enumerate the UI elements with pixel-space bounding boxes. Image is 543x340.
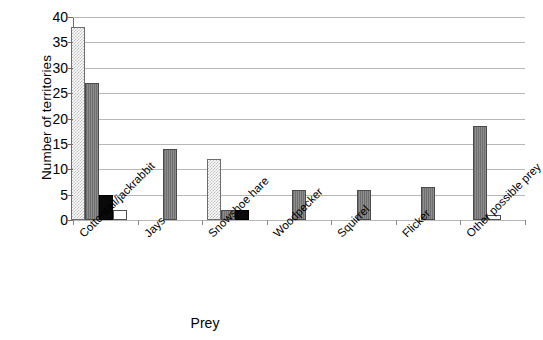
y-axis-tick-label: 0: [40, 213, 68, 227]
gridline: [73, 220, 525, 221]
gridline: [73, 119, 525, 120]
bar: [71, 27, 85, 220]
x-axis-tick-mark: [267, 220, 268, 225]
y-axis-tick-labels: 4035302520151050: [40, 0, 68, 230]
y-axis-tick-mark: [68, 169, 73, 170]
bar: [473, 126, 487, 220]
bar: [85, 83, 99, 220]
bar: [113, 210, 127, 220]
x-axis-tick-mark: [525, 220, 526, 225]
y-axis-tick-mark: [68, 144, 73, 145]
y-axis-tick-label: 10: [40, 162, 68, 176]
gridline: [73, 17, 525, 18]
bar: [163, 149, 177, 220]
y-axis-tick-mark: [68, 119, 73, 120]
gridline: [73, 93, 525, 94]
plot-area: [73, 17, 525, 220]
y-axis-tick-mark: [68, 68, 73, 69]
y-axis-tick-mark: [68, 42, 73, 43]
y-axis-tick-mark: [68, 195, 73, 196]
y-axis-tick-label: 5: [40, 188, 68, 202]
x-axis-tick-mark: [331, 220, 332, 225]
gridline: [73, 42, 525, 43]
y-axis-tick-label: 40: [40, 10, 68, 24]
y-axis-tick-label: 30: [40, 61, 68, 75]
x-axis-tick-mark: [73, 220, 74, 225]
y-axis-tick-label: 25: [40, 86, 68, 100]
x-axis-tick-mark: [138, 220, 139, 225]
x-axis-tick-mark: [460, 220, 461, 225]
y-axis-tick-mark: [68, 17, 73, 18]
y-axis-tick-label: 20: [40, 112, 68, 126]
x-axis-tick-mark: [396, 220, 397, 225]
y-axis-tick-mark: [68, 93, 73, 94]
gridline: [73, 68, 525, 69]
y-axis-tick-label: 35: [40, 35, 68, 49]
gridline: [73, 144, 525, 145]
x-axis-title: Prey: [0, 315, 410, 331]
y-axis-tick-label: 15: [40, 137, 68, 151]
bar: [207, 159, 221, 220]
x-axis-tick-mark: [202, 220, 203, 225]
